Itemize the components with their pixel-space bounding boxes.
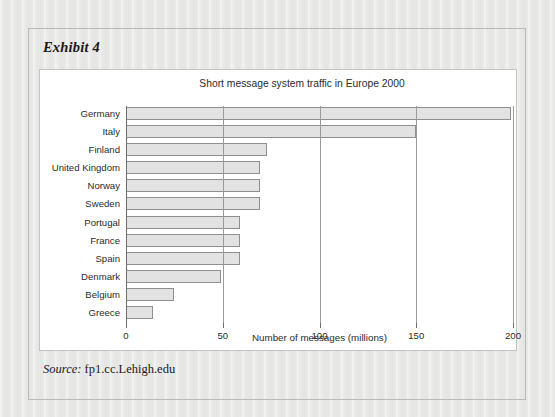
exhibit-label: Exhibit 4 xyxy=(43,39,100,56)
gridline-200 xyxy=(513,106,514,323)
category-label: Portugal xyxy=(84,216,126,229)
gridline-50 xyxy=(223,106,224,323)
category-label: Italy xyxy=(102,125,126,138)
category-label: Belgium xyxy=(85,288,126,301)
category-label: United Kingdom xyxy=(52,161,126,174)
exhibit-container: Exhibit 4 Short message system traffic i… xyxy=(28,28,526,400)
category-label: Germany xyxy=(81,107,126,120)
category-label: Spain xyxy=(95,252,126,265)
bar xyxy=(126,125,416,138)
gridline-150 xyxy=(416,106,417,323)
category-label: Denmark xyxy=(81,270,126,283)
bar xyxy=(126,197,260,210)
x-tick-150 xyxy=(416,323,417,328)
source-note: Source: fp1.cc.Lehigh.edu xyxy=(43,362,175,377)
plot-area: GermanyItalyFinlandUnited KingdomNorwayS… xyxy=(126,106,513,323)
category-label: Sweden xyxy=(85,197,126,210)
x-tick-200 xyxy=(513,323,514,328)
x-tick-0 xyxy=(126,323,127,328)
x-axis-title: Number of messages (millions) xyxy=(126,332,513,343)
bar xyxy=(126,306,153,319)
gridline-100 xyxy=(320,106,321,323)
bar xyxy=(126,161,260,174)
source-keyword: Source: xyxy=(43,362,81,376)
category-label: Norway xyxy=(87,179,126,192)
source-value: fp1.cc.Lehigh.edu xyxy=(85,362,176,376)
x-tick-100 xyxy=(320,323,321,328)
bar xyxy=(126,288,174,301)
chart-title: Short message system traffic in Europe 2… xyxy=(40,78,516,89)
gridline-0 xyxy=(126,106,127,323)
bar xyxy=(126,143,267,156)
category-label: Finland xyxy=(89,143,126,156)
bar xyxy=(126,270,221,283)
x-tick-50 xyxy=(223,323,224,328)
bar xyxy=(126,179,260,192)
chart-card: Short message system traffic in Europe 2… xyxy=(39,69,517,351)
category-label: France xyxy=(90,234,126,247)
category-label: Greece xyxy=(89,306,126,319)
